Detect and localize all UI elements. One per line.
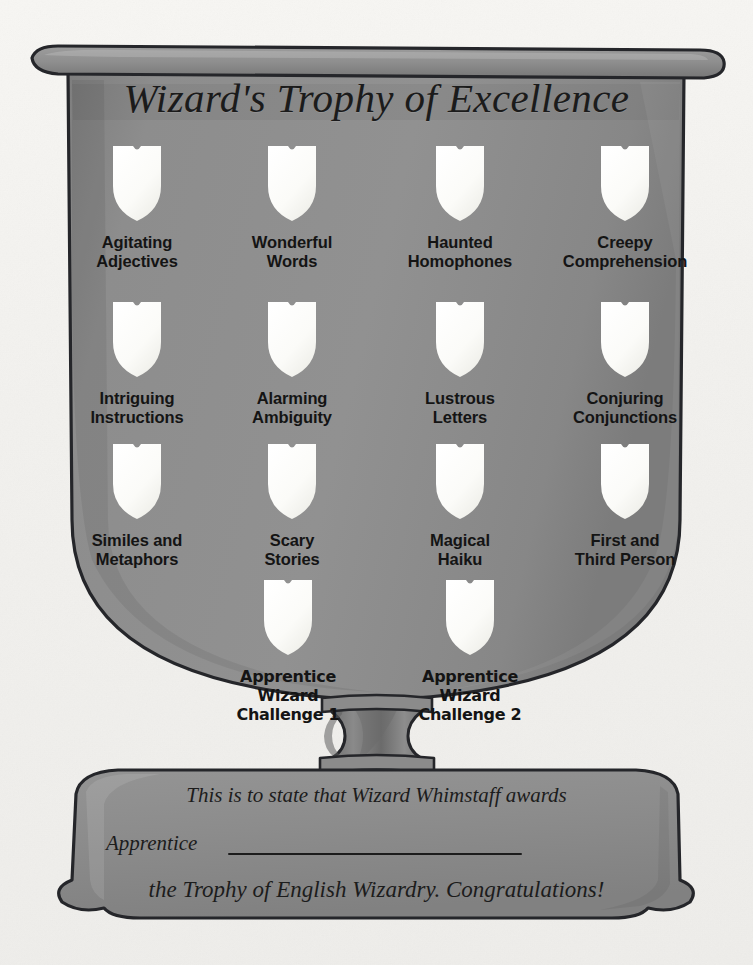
- banner-line-1: This is to state that Wizard Whimstaff a…: [0, 783, 753, 808]
- badge-scary-stories[interactable]: ScaryStories: [217, 524, 367, 569]
- badge-label-line1: Magical: [385, 531, 535, 550]
- badge-alarming-ambiguity[interactable]: AlarmingAmbiguity: [217, 382, 367, 427]
- badge-label-line2: Conjunctions: [550, 408, 700, 427]
- badge-label-line1: Wonderful: [217, 233, 367, 252]
- badge-label-line1: Lustrous: [385, 389, 535, 408]
- page-title: Wizard's Trophy of Excellence: [0, 74, 753, 122]
- badge-label-line1: Conjuring: [550, 389, 700, 408]
- badge-label-line1: Apprentice Wizard: [213, 667, 363, 705]
- badge-magical-haiku[interactable]: MagicalHaiku: [385, 524, 535, 569]
- badge-label-line2: Letters: [385, 408, 535, 427]
- badge-label-line1: Creepy: [550, 233, 700, 252]
- badge-label-line2: Challenge 1: [213, 705, 363, 724]
- banner-line-3: the Trophy of English Wizardry. Congratu…: [0, 877, 753, 903]
- badge-apprentice-wizard-challenge-1[interactable]: Apprentice WizardChallenge 1: [213, 660, 363, 724]
- badge-label-line2: Adjectives: [62, 252, 212, 271]
- badge-label-line1: First and: [550, 531, 700, 550]
- badge-label-line2: Metaphors: [62, 550, 212, 569]
- banner-line-2: Apprentice: [0, 831, 197, 856]
- badge-label-line1: Apprentice Wizard: [395, 667, 545, 705]
- badge-haunted-homophones[interactable]: HauntedHomophones: [385, 226, 535, 271]
- badge-label-line2: Stories: [217, 550, 367, 569]
- badge-label-line1: Scary: [217, 531, 367, 550]
- badge-wonderful-words[interactable]: WonderfulWords: [217, 226, 367, 271]
- badge-label-line2: Homophones: [385, 252, 535, 271]
- badge-label-line2: Instructions: [62, 408, 212, 427]
- badge-label-line2: Third Person: [550, 550, 700, 569]
- page-canvas: Wizard's Trophy of Excellence AgitatingA…: [0, 0, 753, 965]
- badge-agitating-adjectives[interactable]: AgitatingAdjectives: [62, 226, 212, 271]
- badge-label-line2: Challenge 2: [395, 705, 545, 724]
- badge-apprentice-wizard-challenge-2[interactable]: Apprentice WizardChallenge 2: [395, 660, 545, 724]
- badge-label-line2: Haiku: [385, 550, 535, 569]
- badge-label-line1: Alarming: [217, 389, 367, 408]
- badge-label-line1: Agitating: [62, 233, 212, 252]
- badge-lustrous-letters[interactable]: LustrousLetters: [385, 382, 535, 427]
- badge-label-line2: Comprehension: [550, 252, 700, 271]
- badge-label-line2: Ambiguity: [217, 408, 367, 427]
- trophy-illustration: [0, 0, 753, 965]
- recipient-name-blank-field[interactable]: [228, 853, 522, 855]
- badge-conjuring-conjunctions[interactable]: ConjuringConjunctions: [550, 382, 700, 427]
- badge-similes-and-metaphors[interactable]: Similes andMetaphors: [62, 524, 212, 569]
- badge-intriguing-instructions[interactable]: IntriguingInstructions: [62, 382, 212, 427]
- badge-label-line1: Haunted: [385, 233, 535, 252]
- badge-label-line1: Similes and: [62, 531, 212, 550]
- badge-creepy-comprehension[interactable]: CreepyComprehension: [550, 226, 700, 271]
- badge-first-and-third-person[interactable]: First andThird Person: [550, 524, 700, 569]
- badge-label-line2: Words: [217, 252, 367, 271]
- badge-label-line1: Intriguing: [62, 389, 212, 408]
